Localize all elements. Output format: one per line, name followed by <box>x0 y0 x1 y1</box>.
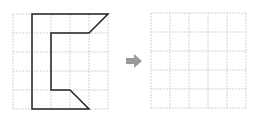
source-grid-panel <box>0 0 128 122</box>
target-grid-panel <box>128 0 256 122</box>
target-grid <box>128 0 256 122</box>
source-grid <box>0 0 128 122</box>
shape-outline <box>32 14 108 109</box>
